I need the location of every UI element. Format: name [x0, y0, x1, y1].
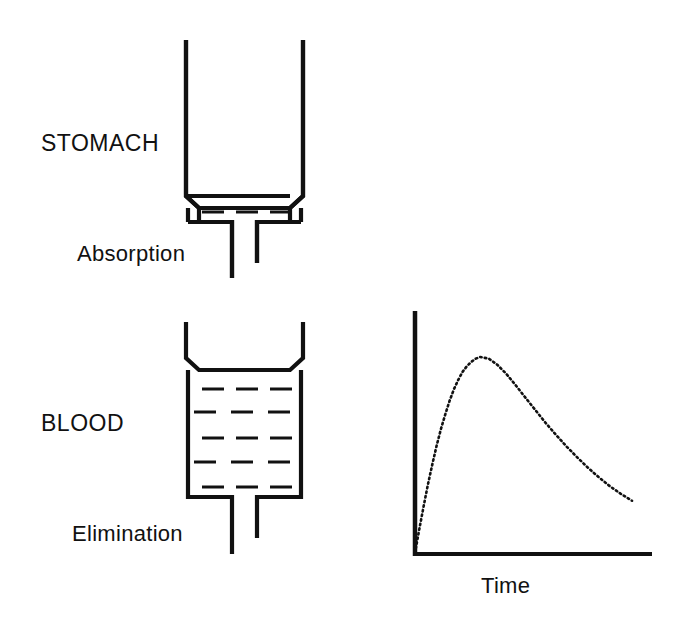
- time-axis-label: Time: [481, 575, 530, 597]
- blood-contents-dashes: [194, 389, 292, 487]
- elimination-label: Elimination: [72, 523, 183, 545]
- plot-curve-blood-concentration: [415, 357, 632, 553]
- stomach-vessel-floor: [188, 208, 301, 278]
- blood-compartment: [186, 322, 303, 554]
- stomach-vessel-body: [186, 40, 303, 208]
- concentration-time-plot: [413, 311, 652, 556]
- absorption-label: Absorption: [77, 243, 185, 265]
- pharmacokinetics-diagram: STOMACH Absorption BLOOD Elimination Tim…: [0, 0, 677, 634]
- blood-vessel-body: [186, 322, 303, 370]
- stomach-vessel-outline: [186, 40, 303, 278]
- stomach-label: STOMACH: [41, 132, 159, 155]
- blood-label: BLOOD: [41, 412, 124, 435]
- stomach-compartment: [186, 40, 303, 278]
